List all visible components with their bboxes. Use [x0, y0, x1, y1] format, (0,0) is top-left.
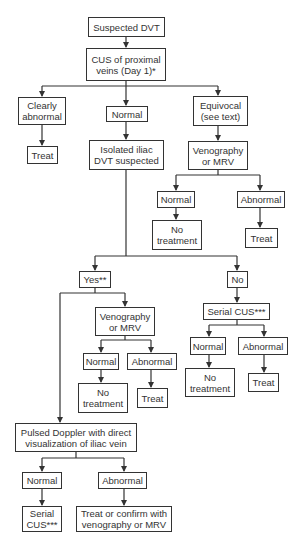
node-serial-cus-no: Serial CUS*** — [203, 303, 270, 320]
node-pulsed-doppler: Pulsed Doppler with direct visualization… — [15, 423, 137, 452]
node-doppler-serial-cus: Serial CUS*** — [22, 506, 62, 532]
node-yes-abnormal: Abnormal — [127, 353, 177, 370]
node-equivocal-no-treatment: No treatment — [152, 220, 202, 250]
node-equivocal-abnormal: Abnormal — [237, 191, 285, 208]
node-normal-initial: Normal — [106, 106, 148, 122]
connector-lines — [0, 0, 300, 540]
node-serial-treat: Treat — [248, 373, 279, 392]
node-serial-abnormal: Abnormal — [238, 337, 288, 355]
node-doppler-abnormal: Abnormal — [98, 472, 147, 489]
node-yes-no-treatment: No treatment — [78, 383, 128, 413]
node-venography-equivocal: Venography or MRV — [188, 141, 248, 170]
node-equivocal-treat: Treat — [245, 228, 278, 248]
node-isolated-iliac-dvt: Isolated iliac DVT suspected — [89, 140, 164, 170]
node-no: No — [227, 271, 248, 288]
node-yes-treat: Treat — [137, 388, 168, 408]
node-suspected-dvt: Suspected DVT — [88, 17, 165, 37]
node-venography-yes: Venography or MRV — [95, 307, 155, 336]
dvt-flowchart: Suspected DVT CUS of proximal veins (Day… — [0, 0, 300, 540]
node-clearly-abnormal: Clearly abnormal — [18, 97, 66, 125]
node-yes-normal: Normal — [83, 353, 119, 370]
node-doppler-treat-or-confirm: Treat or confirm with venography or MRV — [76, 506, 172, 532]
node-treat-clearly-abnormal: Treat — [27, 146, 58, 164]
node-yes: Yes** — [79, 271, 111, 288]
node-cus-proximal-veins: CUS of proximal veins (Day 1)* — [86, 48, 166, 81]
node-serial-normal: Normal — [190, 337, 226, 355]
node-doppler-normal: Normal — [22, 472, 62, 489]
node-equivocal-normal: Normal — [157, 191, 195, 208]
node-equivocal: Equivocal (see text) — [193, 96, 248, 126]
node-serial-no-treatment: No treatment — [185, 368, 235, 397]
